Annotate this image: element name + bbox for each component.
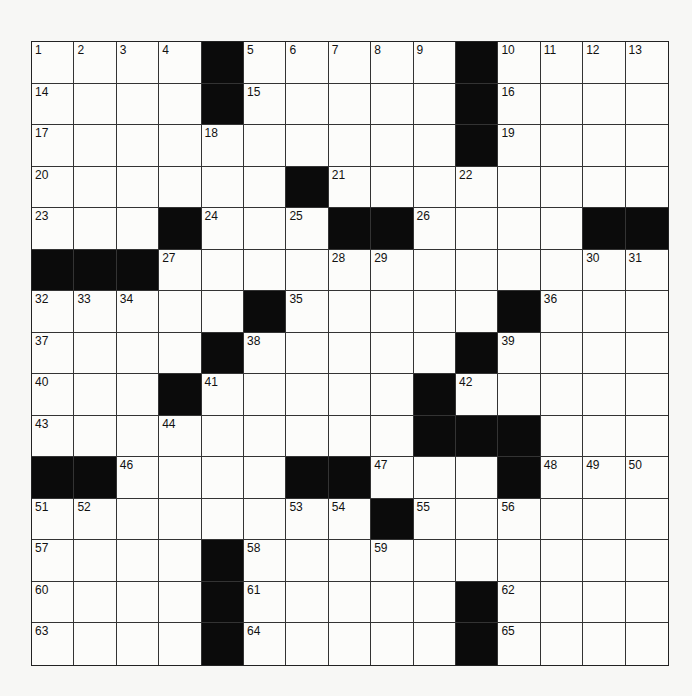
grid-cell[interactable] [329,291,371,333]
grid-cell[interactable]: 32 [32,291,74,333]
grid-cell[interactable] [159,333,201,375]
grid-cell[interactable] [202,416,244,458]
grid-cell[interactable]: 16 [498,84,540,126]
grid-cell[interactable] [371,623,413,665]
grid-cell[interactable] [74,125,116,167]
grid-cell[interactable]: 40 [32,374,74,416]
grid-cell[interactable] [159,84,201,126]
grid-cell[interactable] [371,333,413,375]
grid-cell[interactable] [541,623,583,665]
grid-cell[interactable]: 57 [32,540,74,582]
grid-cell[interactable]: 21 [329,167,371,209]
grid-cell[interactable] [541,416,583,458]
grid-cell[interactable] [117,499,159,541]
grid-cell[interactable]: 8 [371,42,413,84]
grid-cell[interactable] [498,250,540,292]
grid-cell[interactable] [583,416,625,458]
grid-cell[interactable] [626,333,668,375]
grid-cell[interactable]: 38 [244,333,286,375]
grid-cell[interactable]: 2 [74,42,116,84]
grid-cell[interactable]: 1 [32,42,74,84]
grid-cell[interactable]: 55 [414,499,456,541]
grid-cell[interactable] [414,125,456,167]
grid-cell[interactable] [456,540,498,582]
grid-cell[interactable] [414,540,456,582]
grid-cell[interactable]: 25 [286,208,328,250]
grid-cell[interactable]: 24 [202,208,244,250]
grid-cell[interactable] [583,374,625,416]
grid-cell[interactable]: 10 [498,42,540,84]
grid-cell[interactable] [371,291,413,333]
grid-cell[interactable] [371,374,413,416]
grid-cell[interactable]: 11 [541,42,583,84]
grid-cell[interactable]: 33 [74,291,116,333]
grid-cell[interactable]: 6 [286,42,328,84]
grid-cell[interactable] [583,167,625,209]
grid-cell[interactable] [244,250,286,292]
grid-cell[interactable]: 7 [329,42,371,84]
grid-cell[interactable] [626,167,668,209]
grid-cell[interactable] [498,167,540,209]
grid-cell[interactable] [286,125,328,167]
grid-cell[interactable] [159,291,201,333]
grid-cell[interactable]: 5 [244,42,286,84]
grid-cell[interactable]: 15 [244,84,286,126]
grid-cell[interactable] [626,416,668,458]
grid-cell[interactable]: 51 [32,499,74,541]
grid-cell[interactable]: 44 [159,416,201,458]
grid-cell[interactable] [583,540,625,582]
grid-cell[interactable] [117,333,159,375]
grid-cell[interactable] [244,208,286,250]
grid-cell[interactable] [541,540,583,582]
grid-cell[interactable]: 58 [244,540,286,582]
grid-cell[interactable] [498,208,540,250]
grid-cell[interactable] [244,167,286,209]
grid-cell[interactable] [371,125,413,167]
grid-cell[interactable]: 65 [498,623,540,665]
grid-cell[interactable] [286,374,328,416]
grid-cell[interactable] [541,167,583,209]
grid-cell[interactable] [117,167,159,209]
grid-cell[interactable] [626,291,668,333]
grid-cell[interactable]: 34 [117,291,159,333]
grid-cell[interactable]: 60 [32,582,74,624]
grid-cell[interactable] [541,125,583,167]
grid-cell[interactable] [329,125,371,167]
grid-cell[interactable] [117,416,159,458]
grid-cell[interactable]: 22 [456,167,498,209]
grid-cell[interactable] [286,623,328,665]
grid-cell[interactable]: 9 [414,42,456,84]
grid-cell[interactable] [583,623,625,665]
grid-cell[interactable]: 47 [371,457,413,499]
grid-cell[interactable] [244,125,286,167]
grid-cell[interactable]: 30 [583,250,625,292]
grid-cell[interactable] [74,540,116,582]
grid-cell[interactable] [329,540,371,582]
grid-cell[interactable] [626,623,668,665]
grid-cell[interactable]: 62 [498,582,540,624]
grid-cell[interactable] [456,250,498,292]
grid-cell[interactable] [414,582,456,624]
grid-cell[interactable] [286,540,328,582]
grid-cell[interactable] [626,84,668,126]
grid-cell[interactable] [583,333,625,375]
grid-cell[interactable] [159,582,201,624]
grid-cell[interactable] [541,250,583,292]
grid-cell[interactable] [414,457,456,499]
grid-cell[interactable] [74,582,116,624]
grid-cell[interactable] [74,208,116,250]
grid-cell[interactable] [414,167,456,209]
grid-cell[interactable]: 53 [286,499,328,541]
grid-cell[interactable] [541,499,583,541]
grid-cell[interactable] [329,623,371,665]
grid-cell[interactable]: 64 [244,623,286,665]
grid-cell[interactable] [414,333,456,375]
grid-cell[interactable] [583,84,625,126]
grid-cell[interactable] [286,84,328,126]
grid-cell[interactable]: 29 [371,250,413,292]
grid-cell[interactable] [202,250,244,292]
grid-cell[interactable] [626,374,668,416]
grid-cell[interactable]: 43 [32,416,74,458]
grid-cell[interactable] [202,167,244,209]
grid-cell[interactable] [159,457,201,499]
